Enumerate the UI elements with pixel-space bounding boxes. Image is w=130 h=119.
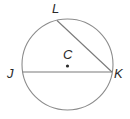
label-c: C	[63, 47, 73, 62]
label-l: L	[52, 1, 59, 16]
circle-diagram: C L J K	[0, 0, 130, 119]
label-k: K	[114, 66, 124, 81]
center-point-c	[66, 64, 69, 67]
label-j: J	[6, 66, 14, 81]
